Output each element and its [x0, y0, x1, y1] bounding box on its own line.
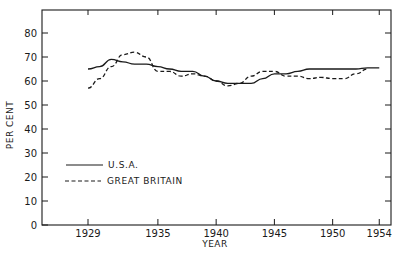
x-axis: 192919351940194519501954 [75, 10, 392, 239]
x-tick-label: 1954 [367, 228, 392, 239]
line-chart: 01020304050607080 1929193519401945195019… [0, 0, 401, 259]
x-axis-title: YEAR [201, 239, 228, 249]
x-tick-label: 1929 [75, 228, 100, 239]
y-tick-label: 80 [24, 28, 37, 39]
y-tick-label: 50 [24, 100, 37, 111]
legend-label-usa: U.S.A. [108, 160, 138, 170]
y-tick-label: 20 [24, 172, 37, 183]
y-axis-title: PER CENT [5, 101, 15, 149]
y-axis: 01020304050607080 [24, 28, 391, 231]
series-layer [88, 52, 379, 88]
x-tick-label: 1935 [145, 228, 170, 239]
legend-label-great-britain: GREAT BRITAIN [107, 176, 183, 186]
legend: U.S.A. GREAT BRITAIN [65, 160, 183, 186]
series-line-u-s-a [88, 59, 379, 83]
x-tick-label: 1950 [320, 228, 345, 239]
y-tick-label: 40 [24, 124, 37, 135]
y-tick-label: 30 [24, 148, 37, 159]
x-tick-label: 1940 [203, 228, 228, 239]
x-tick-label: 1945 [262, 228, 287, 239]
y-tick-label: 60 [24, 76, 37, 87]
y-tick-label: 0 [31, 220, 37, 231]
y-tick-label: 10 [24, 196, 37, 207]
plot-frame [42, 10, 391, 225]
y-tick-label: 70 [24, 52, 37, 63]
